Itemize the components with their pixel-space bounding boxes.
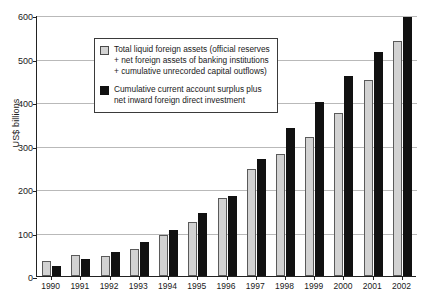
x-axis-tick-label: 1997 bbox=[241, 281, 270, 291]
bar bbox=[374, 52, 383, 276]
x-axis-tick-mark bbox=[343, 276, 344, 280]
bar bbox=[276, 154, 285, 276]
legend-label: Cumulative current account surplus plus … bbox=[114, 84, 271, 106]
legend-swatch-dark-icon bbox=[100, 86, 109, 95]
bar bbox=[286, 128, 295, 276]
y-axis-tick-label: 200 bbox=[18, 186, 33, 196]
x-axis-tick-mark bbox=[197, 276, 198, 280]
bar-group bbox=[388, 15, 417, 276]
x-axis-tick-label: 2000 bbox=[328, 281, 357, 291]
bar-chart: US$ billions 0100200300400500600 Total l… bbox=[0, 0, 422, 306]
bar bbox=[198, 213, 207, 276]
legend-swatch-light-icon bbox=[100, 46, 109, 55]
x-axis-tick-label: 1992 bbox=[94, 281, 123, 291]
x-axis-tick-label: 2001 bbox=[358, 281, 387, 291]
x-axis-tick-mark bbox=[256, 276, 257, 280]
x-axis-tick-label: 1999 bbox=[299, 281, 328, 291]
bar bbox=[393, 41, 402, 276]
y-axis-tick-label: 100 bbox=[18, 230, 33, 240]
x-axis-tick-label: 2002 bbox=[387, 281, 416, 291]
bar-group bbox=[359, 15, 388, 276]
bar bbox=[305, 137, 314, 276]
x-axis-tick-mark bbox=[110, 276, 111, 280]
bar bbox=[159, 235, 168, 276]
bar bbox=[71, 255, 80, 276]
x-axis-labels: 1990199119921993199419951996199719981999… bbox=[36, 281, 416, 291]
x-axis-tick-mark bbox=[373, 276, 374, 280]
bar bbox=[101, 256, 110, 276]
bar bbox=[247, 169, 256, 276]
bar bbox=[364, 80, 373, 276]
bar bbox=[52, 266, 61, 276]
x-axis-tick-label: 1991 bbox=[65, 281, 94, 291]
x-axis-tick-label: 1998 bbox=[270, 281, 299, 291]
y-axis-tick-label: 500 bbox=[18, 56, 33, 66]
bar bbox=[81, 259, 90, 276]
bar bbox=[218, 198, 227, 276]
bar bbox=[111, 252, 120, 276]
bar-group bbox=[66, 15, 95, 276]
bar bbox=[344, 76, 353, 276]
x-axis-tick-label: 1994 bbox=[153, 281, 182, 291]
bar bbox=[169, 230, 178, 276]
y-axis-tick-mark bbox=[33, 278, 37, 279]
legend-item-total-liquid-foreign-assets: Total liquid foreign assets (official re… bbox=[100, 44, 271, 77]
bar-group bbox=[300, 15, 329, 276]
x-axis-tick-mark bbox=[402, 276, 403, 280]
plot-area: 0100200300400500600 Total liquid foreign… bbox=[36, 16, 416, 277]
bar bbox=[228, 196, 237, 276]
bar bbox=[403, 17, 412, 276]
legend-item-cumulative-current-account: Cumulative current account surplus plus … bbox=[100, 84, 271, 106]
bar bbox=[42, 261, 51, 276]
bar-group bbox=[37, 15, 66, 276]
x-axis-tick-label: 1993 bbox=[124, 281, 153, 291]
y-axis-tick-label: 300 bbox=[18, 143, 33, 153]
x-axis-tick-mark bbox=[285, 276, 286, 280]
chart-legend: Total liquid foreign assets (official re… bbox=[94, 38, 278, 113]
x-axis-tick-mark bbox=[227, 276, 228, 280]
legend-label: Total liquid foreign assets (official re… bbox=[114, 44, 271, 77]
x-axis-tick-mark bbox=[80, 276, 81, 280]
bar bbox=[334, 113, 343, 276]
y-axis-title: US$ billions bbox=[11, 73, 21, 173]
x-axis-tick-mark bbox=[139, 276, 140, 280]
bar bbox=[140, 242, 149, 276]
x-axis-tick-mark bbox=[314, 276, 315, 280]
x-axis-tick-label: 1990 bbox=[36, 281, 65, 291]
bar bbox=[257, 159, 266, 276]
bar-group bbox=[329, 15, 358, 276]
bar bbox=[315, 102, 324, 276]
y-axis-tick-label: 400 bbox=[18, 99, 33, 109]
x-axis-tick-mark bbox=[168, 276, 169, 280]
x-axis-tick-label: 1996 bbox=[211, 281, 240, 291]
bar bbox=[130, 249, 139, 276]
y-axis-tick-label: 600 bbox=[18, 12, 33, 22]
x-axis-tick-mark bbox=[51, 276, 52, 280]
bar bbox=[188, 222, 197, 276]
x-axis-tick-label: 1995 bbox=[182, 281, 211, 291]
